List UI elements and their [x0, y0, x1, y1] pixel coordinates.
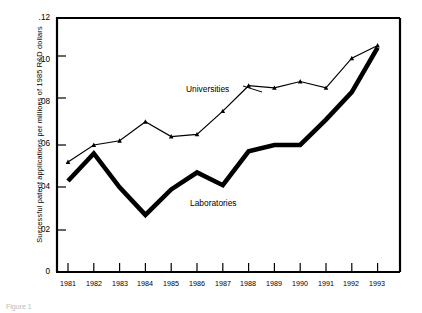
series-label-laboratories: Laboratories [190, 198, 237, 208]
y-tick-label-0.08: .08 [26, 98, 50, 106]
series-line-universities [68, 46, 378, 162]
y-tick-label-0: 0 [26, 268, 50, 276]
series-markers-universities [66, 43, 380, 164]
data-point-marker [143, 119, 148, 123]
figure-caption: Figure 1 [6, 303, 32, 310]
y-tick-label-0.06: .06 [26, 140, 50, 148]
data-point-marker [375, 43, 380, 47]
data-point-marker [298, 79, 303, 83]
y-tick-label-0.12: .12 [26, 14, 50, 22]
y-tick-label-0.04: .04 [26, 183, 50, 191]
y-tick-marks [57, 56, 66, 230]
y-tick-label-0.02: .02 [26, 226, 50, 234]
x-tick-marks [68, 263, 378, 272]
plot-area [0, 0, 422, 313]
chart-figure: Successful patent applications per milli… [0, 0, 422, 313]
y-tick-label-0.10: .10 [26, 56, 50, 64]
series-line-laboratories [68, 48, 378, 215]
series-label-universities: Universities [186, 84, 229, 94]
y-axis-title: Successful patent applications per milli… [35, 10, 44, 260]
axis-frame [57, 18, 400, 272]
x-tick-label-1993: 1993 [362, 280, 392, 288]
